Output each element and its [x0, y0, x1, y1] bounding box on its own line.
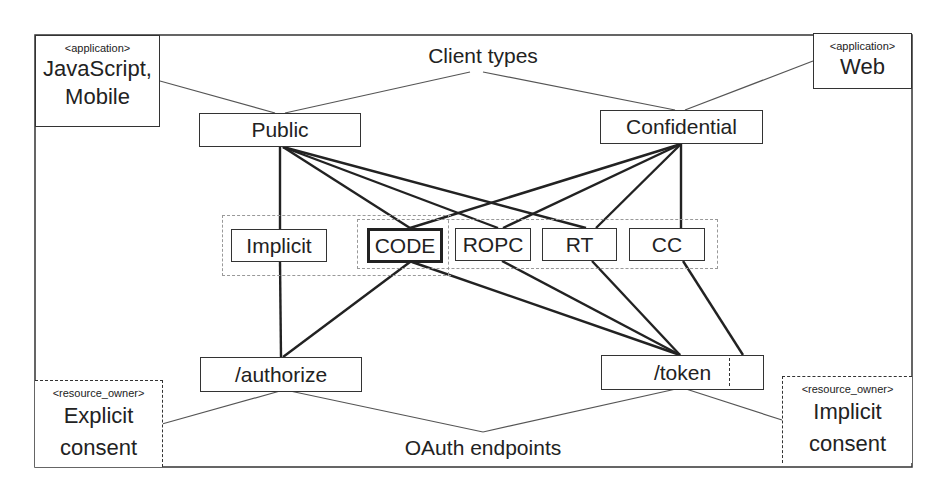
- grant-label: RT: [566, 233, 594, 257]
- endpoint-label: /authorize: [235, 363, 327, 387]
- client-types-label: Client types: [428, 44, 538, 68]
- resource-owner-name: Explicit: [64, 400, 134, 432]
- endpoint-token: /token: [601, 355, 764, 390]
- resource-owner-name: Implicit: [813, 396, 881, 428]
- grant-ropc: ROPC: [455, 228, 531, 261]
- grant-implicit: Implicit: [231, 229, 327, 262]
- client-type-label: Public: [251, 118, 308, 142]
- stereotype-label: <resource_owner>: [53, 387, 145, 400]
- oauth-diagram: <application> JavaScript, Mobile <applic…: [0, 0, 939, 494]
- client-type-label: Confidential: [626, 115, 737, 139]
- endpoint-label: /token: [654, 361, 711, 385]
- endpoint-authorize: /authorize: [200, 357, 362, 392]
- resource-owner-explicit-consent: <resource_owner> Explicit consent: [35, 380, 163, 467]
- stereotype-label: <application>: [830, 40, 895, 53]
- grant-group-separator: [448, 215, 449, 275]
- grant-rt: RT: [542, 228, 617, 261]
- grant-label: CC: [652, 233, 682, 257]
- client-type-confidential: Confidential: [600, 110, 763, 144]
- resource-owner-name-line2: consent: [60, 432, 137, 464]
- application-name: Web: [840, 53, 885, 81]
- stereotype-label: <resource_owner>: [802, 383, 894, 396]
- stereotype-label: <application>: [65, 42, 130, 55]
- application-name: JavaScript,: [43, 55, 152, 83]
- grant-label: Implicit: [246, 234, 311, 258]
- application-name-line2: Mobile: [65, 83, 130, 111]
- grant-label: CODE: [375, 234, 436, 258]
- resource-owner-name-line2: consent: [809, 428, 886, 460]
- application-javascript-mobile: <application> JavaScript, Mobile: [35, 35, 160, 127]
- token-divider: [729, 358, 730, 386]
- grant-label: ROPC: [463, 233, 524, 257]
- application-web: <application> Web: [813, 33, 912, 89]
- resource-owner-implicit-consent: <resource_owner> Implicit consent: [782, 376, 912, 463]
- grant-code: CODE: [367, 228, 443, 263]
- oauth-endpoints-label: OAuth endpoints: [405, 436, 561, 460]
- grant-cc: CC: [629, 228, 705, 261]
- client-type-public: Public: [199, 113, 361, 147]
